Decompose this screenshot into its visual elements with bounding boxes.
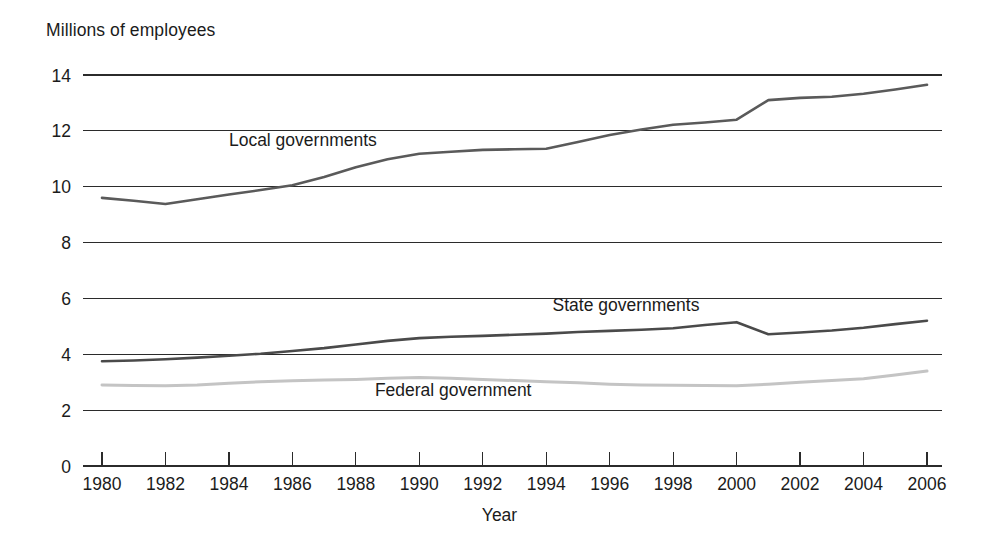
chart-container: Millions of employees 02468101214 198019…	[0, 0, 999, 550]
y-axis-tick-label: 0	[61, 457, 71, 477]
data-line-state-governments	[102, 321, 927, 362]
x-axis-tick-labels: 1980198219841986198819901992199419961998…	[83, 474, 947, 494]
series-label-federal-government: Federal government	[375, 380, 532, 400]
gridlines	[83, 75, 942, 466]
y-axis-tick-label: 12	[52, 121, 71, 141]
x-axis-tick-label: 1980	[83, 474, 122, 494]
x-axis-tickmarks	[102, 452, 927, 466]
x-axis-tick-label: 2002	[781, 474, 820, 494]
x-axis-title: Year	[0, 505, 999, 526]
x-axis-tick-label: 1984	[209, 474, 248, 494]
y-axis-tick-labels: 02468101214	[52, 66, 72, 477]
x-axis-tick-label: 1994	[527, 474, 566, 494]
series-label-local-governments: Local governments	[229, 130, 377, 150]
x-axis-tick-label: 2006	[908, 474, 947, 494]
x-axis-tick-label: 1988	[336, 474, 375, 494]
series-label-state-governments: State governments	[553, 295, 700, 315]
y-axis-tick-label: 10	[52, 177, 72, 197]
x-axis-tick-label: 1990	[400, 474, 439, 494]
x-axis-tick-label: 1986	[273, 474, 312, 494]
data-series-lines	[102, 85, 927, 386]
y-axis-tick-label: 8	[61, 233, 71, 253]
x-axis-tick-label: 1996	[590, 474, 629, 494]
x-axis-tick-label: 2000	[717, 474, 756, 494]
x-axis-tick-label: 1998	[654, 474, 693, 494]
x-axis-tick-label: 1982	[146, 474, 185, 494]
y-axis-tick-label: 2	[61, 401, 71, 421]
x-axis-tick-label: 2004	[844, 474, 883, 494]
y-axis-tick-label: 6	[61, 289, 71, 309]
line-chart-plot: 02468101214 1980198219841986198819901992…	[0, 0, 999, 550]
series-inline-labels: Local governmentsState governmentsFedera…	[229, 130, 700, 399]
x-axis-tick-label: 1992	[463, 474, 502, 494]
y-axis-tick-label: 4	[61, 345, 71, 365]
y-axis-tick-label: 14	[52, 66, 72, 86]
